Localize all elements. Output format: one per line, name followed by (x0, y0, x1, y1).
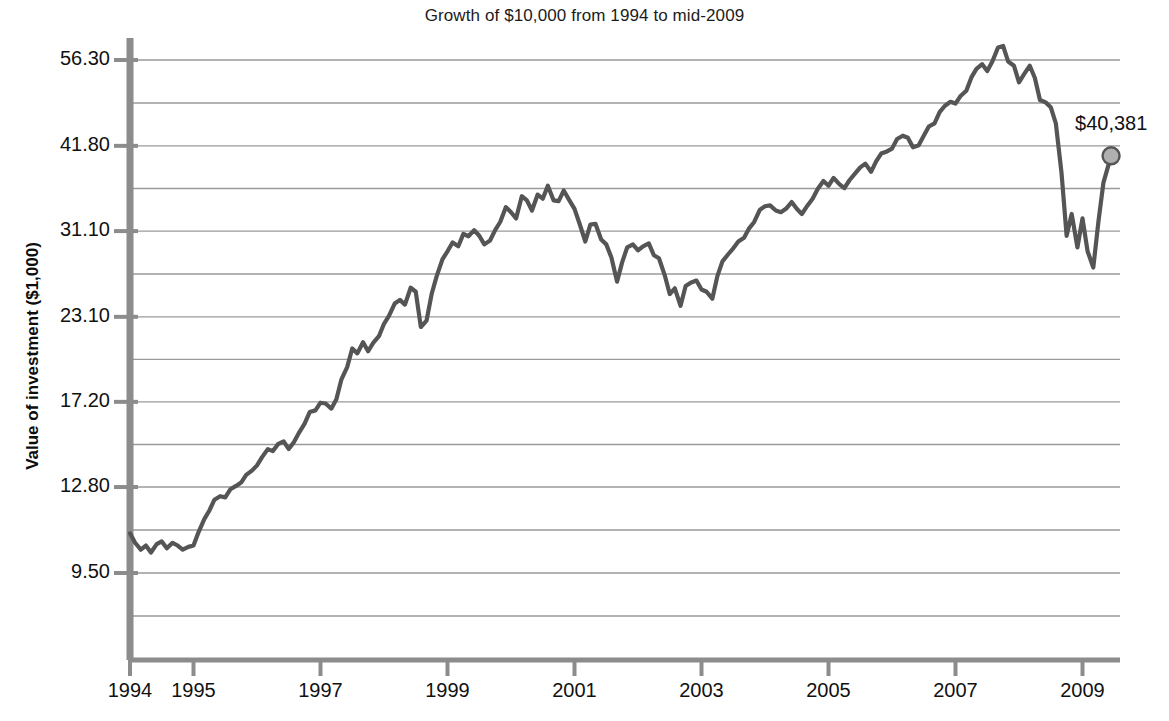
y-axis-tick-label: 9.50 (18, 560, 110, 583)
end-point-marker (1103, 147, 1120, 164)
x-axis-tick-label: 1997 (271, 679, 371, 702)
axis-ticks (114, 60, 1083, 676)
chart-container: Growth of $10,000 from 1994 to mid-2009 … (0, 0, 1169, 721)
data-series-line (130, 46, 1111, 552)
axes (130, 38, 1120, 660)
x-axis-tick-label: 2005 (779, 679, 879, 702)
y-axis-tick-label: 23.10 (18, 304, 110, 327)
x-axis-tick-label: 2001 (525, 679, 625, 702)
y-axis-tick-label: 41.80 (18, 133, 110, 156)
x-axis-tick-label: 1999 (398, 679, 498, 702)
y-axis-tick-label: 17.20 (18, 389, 110, 412)
y-axis-tick-label: 31.10 (18, 218, 110, 241)
x-axis-tick-label: 2007 (906, 679, 1006, 702)
x-axis-tick-label: 2003 (652, 679, 752, 702)
y-axis-tick-label: 56.30 (18, 47, 110, 70)
y-axis-tick-label: 12.80 (18, 474, 110, 497)
x-axis-tick-label: 1995 (144, 679, 244, 702)
plot-area (0, 0, 1169, 721)
gridlines (130, 60, 1120, 616)
end-value-annotation: $40,381 (1075, 112, 1147, 135)
x-axis-tick-label: 2009 (1033, 679, 1133, 702)
